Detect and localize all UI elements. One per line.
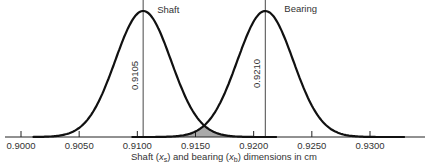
x-tick-label: 0.9200 <box>239 140 268 151</box>
x-tick-label: 0.9100 <box>123 140 152 151</box>
x-tick-label: 0.9250 <box>297 140 326 151</box>
x-tick-label: 0.9150 <box>181 140 210 151</box>
shaft-mean-label: 0.9105 <box>129 61 140 90</box>
normal-distribution-chart: 0.90000.90500.91000.91500.92000.92500.93… <box>0 0 425 168</box>
x-axis-label: Shaft (xs) and bearing (xb) dimensions i… <box>131 151 317 163</box>
overlap-shaded-region <box>143 126 265 138</box>
x-tick-label: 0.9300 <box>355 140 384 151</box>
shaft-distribution-curve <box>33 11 277 137</box>
x-tick-label: 0.9050 <box>65 140 94 151</box>
x-tick-label: 0.9000 <box>6 140 35 151</box>
bearing-label: Bearing <box>284 3 317 14</box>
shaft-label: Shaft <box>157 4 180 15</box>
bearing-mean-label: 0.9210 <box>251 59 262 88</box>
bearing-distribution-curve <box>132 11 405 137</box>
